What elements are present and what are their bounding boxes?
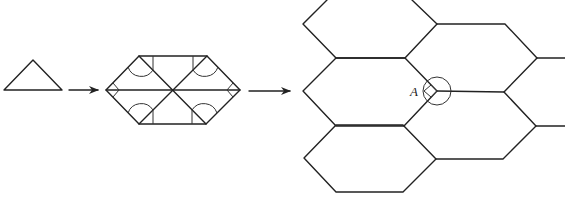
hexagon-middle-right xyxy=(437,58,537,92)
hexagon-top-right xyxy=(437,24,565,58)
vertex-a-label: A xyxy=(409,84,418,99)
hexagon-middle-right-lower xyxy=(504,92,565,126)
hexagon-tiling: A xyxy=(303,0,565,192)
hexagon-from-triangles xyxy=(106,56,240,124)
hexagon-top-left xyxy=(303,0,437,58)
vertex-a-right-angle-marker xyxy=(424,85,437,97)
hexagon-bottom-right xyxy=(436,126,536,159)
hexagon-bottom-left xyxy=(304,125,436,192)
triangle-shape xyxy=(4,60,62,90)
tessellation-diagram: A xyxy=(0,0,565,199)
